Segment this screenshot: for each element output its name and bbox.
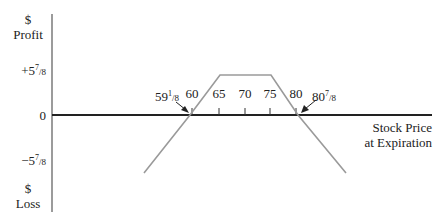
y-tick-zero: 0 <box>4 108 46 123</box>
x-tick-60: 60 <box>182 86 202 101</box>
x-tick-75: 75 <box>260 86 280 101</box>
x-tick-65: 65 <box>209 86 229 101</box>
x-axis-label: Stock Price at Expiration <box>330 120 432 150</box>
breakeven-label-right: 807/8 <box>312 86 336 106</box>
x-ticks <box>192 108 296 115</box>
y-tick-minus: −57/8 <box>4 150 46 170</box>
profit-loss-chart <box>0 0 447 217</box>
x-tick-70: 70 <box>235 86 255 101</box>
y-tick-plus: +57/8 <box>4 60 46 80</box>
breakeven-label-left: 591/8 <box>155 86 179 106</box>
y-top-label: $ Profit <box>8 12 48 42</box>
x-tick-80: 80 <box>286 86 306 101</box>
y-bottom-label: $ Loss <box>8 181 48 211</box>
